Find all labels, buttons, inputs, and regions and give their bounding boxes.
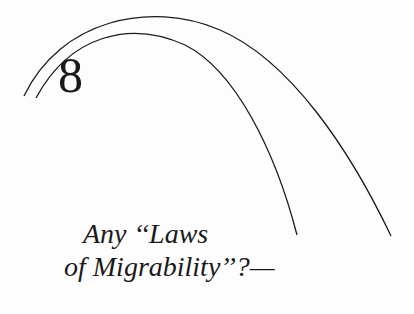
- chapter-title-line-2: of Migrability’’?—: [64, 253, 275, 281]
- chapter-title-line-1: Any ‘‘Laws: [83, 220, 208, 248]
- chapter-number: 8: [58, 50, 83, 100]
